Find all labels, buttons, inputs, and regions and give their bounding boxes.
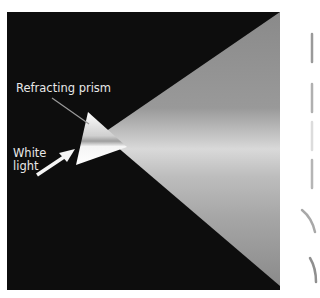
prism-illustration bbox=[7, 12, 280, 290]
white-light-label-line2: light bbox=[13, 160, 39, 173]
side-decoration bbox=[290, 0, 320, 298]
refracting-prism-label: Refracting prism bbox=[16, 82, 111, 95]
prism-diagram-panel: Refracting prism White light bbox=[7, 12, 280, 290]
